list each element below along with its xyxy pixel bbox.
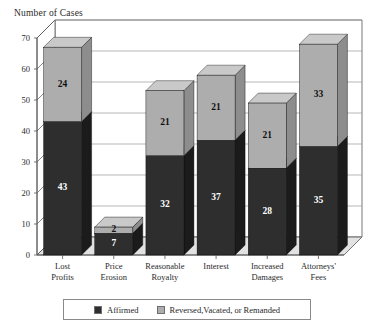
bar-value-reversed: 21 bbox=[197, 102, 235, 112]
legend-item-affirmed[interactable]: Affirmed bbox=[94, 305, 138, 315]
bar-value-reversed: 24 bbox=[44, 79, 82, 89]
bar-value-affirmed: 28 bbox=[248, 206, 286, 216]
legend-label: Reversed,Vacated, or Remanded bbox=[170, 305, 280, 315]
chart-container: Number of Cases 010203040506070 LostProf… bbox=[0, 0, 374, 331]
x-axis-category-label: Attorneys'Fees bbox=[278, 261, 358, 282]
y-axis-tick-label: 70 bbox=[8, 33, 30, 43]
legend-label: Affirmed bbox=[107, 305, 138, 315]
y-axis-tick-label: 0 bbox=[8, 250, 30, 260]
y-axis-tick-label: 10 bbox=[8, 219, 30, 229]
bar-value-affirmed: 43 bbox=[44, 182, 82, 192]
legend-swatch-icon bbox=[94, 306, 102, 314]
bar-value-reversed: 33 bbox=[299, 89, 337, 99]
chart-legend: AffirmedReversed,Vacated, or Remanded bbox=[63, 299, 311, 320]
legend-swatch-icon bbox=[157, 306, 165, 314]
bar-value-reversed: 21 bbox=[146, 117, 184, 127]
bar-value-affirmed: 37 bbox=[197, 192, 235, 202]
y-axis-tick-label: 40 bbox=[8, 126, 30, 136]
bar-value-affirmed: 35 bbox=[299, 195, 337, 205]
y-axis-tick-label: 20 bbox=[8, 188, 30, 198]
y-axis-tick-label: 50 bbox=[8, 95, 30, 105]
y-axis-tick-label: 30 bbox=[8, 157, 30, 167]
bar-value-reversed: 21 bbox=[248, 130, 286, 140]
bar-value-affirmed: 7 bbox=[95, 238, 133, 248]
bar-value-reversed: 2 bbox=[95, 224, 133, 234]
bar-value-affirmed: 32 bbox=[146, 199, 184, 209]
y-axis-tick-label: 60 bbox=[8, 64, 30, 74]
legend-item-reversed[interactable]: Reversed,Vacated, or Remanded bbox=[157, 305, 280, 315]
